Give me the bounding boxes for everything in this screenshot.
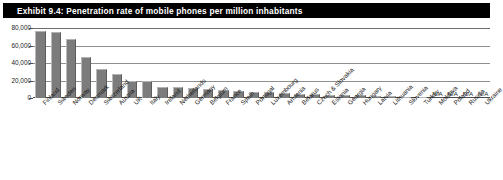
- y-axis-labels: 020,00040,00060,00080,000: [0, 22, 31, 98]
- bar-slot: [142, 28, 152, 98]
- y-axis-tick-label: 60,000: [3, 43, 31, 49]
- y-axis-tick-label: 80,000: [3, 25, 31, 31]
- y-axis-tick-label: 0: [3, 95, 31, 101]
- bar: [142, 81, 152, 98]
- bar-slot: [249, 28, 259, 98]
- y-axis-tick-label: 40,000: [3, 60, 31, 66]
- bar: [35, 31, 45, 98]
- y-axis-tick-label: 20,000: [3, 78, 31, 84]
- bar-slot: N/A: [432, 28, 442, 98]
- bar-chart: 020,00040,00060,00080,000 N/AN/AN/AN/A F…: [0, 22, 493, 158]
- page-title: Exhibit 9.4: Penetration rate of mobile …: [17, 6, 303, 16]
- exhibit-title-bar: Exhibit 9.4: Penetration rate of mobile …: [3, 3, 490, 18]
- bar-slot: [35, 28, 45, 98]
- x-axis-labels: FinlandSwedenNorwayDenmarkSwitzerlandAus…: [33, 99, 493, 180]
- bar-slot: [157, 28, 167, 98]
- bar-slot: [386, 28, 396, 98]
